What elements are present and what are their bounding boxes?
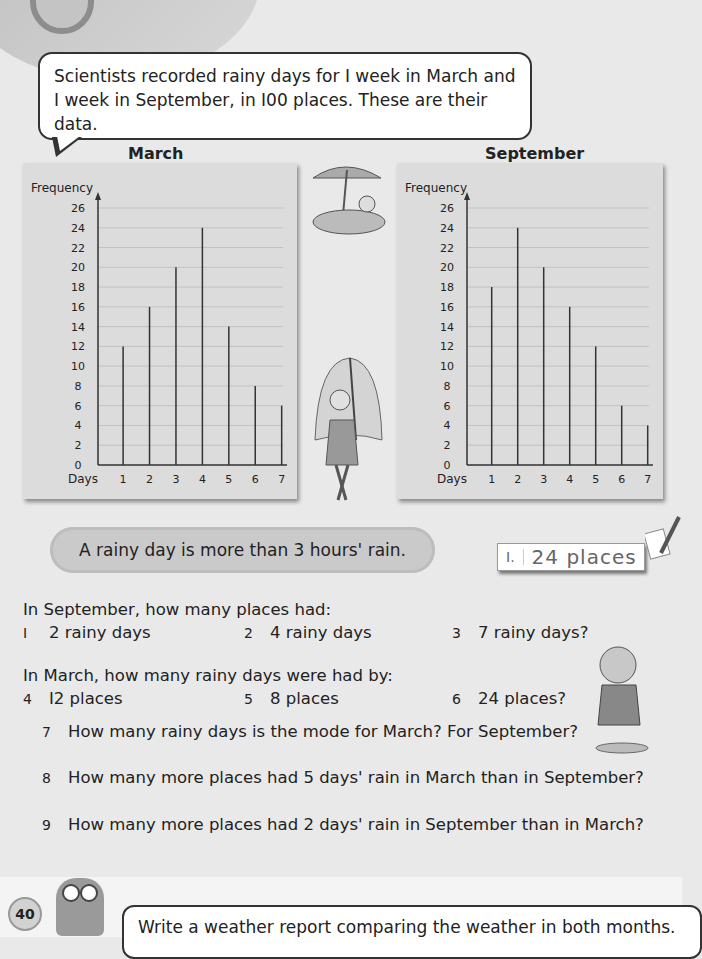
question-text: 4 rainy days [270, 623, 372, 642]
svg-text:Days: Days [437, 472, 467, 486]
intro-line-2: I week in September, in I00 places. Thes… [54, 88, 516, 136]
svg-text:0: 0 [444, 459, 451, 472]
question-number: 2 [244, 625, 270, 641]
question-3: 37 rainy days? [452, 623, 588, 642]
question-number: 3 [452, 625, 478, 641]
svg-text:1: 1 [488, 473, 495, 486]
svg-text:Days: Days [68, 472, 98, 486]
question-number: 5 [244, 691, 270, 707]
svg-text:20: 20 [71, 261, 85, 274]
svg-text:14: 14 [71, 321, 85, 334]
question-text: How many more places had 5 days' rain in… [68, 768, 644, 787]
question-number: 4 [23, 691, 49, 707]
question-number: 9 [42, 817, 68, 833]
svg-text:8: 8 [75, 380, 82, 393]
svg-text:10: 10 [440, 360, 454, 373]
speech-bubble-tail-fill [57, 136, 80, 151]
svg-text:26: 26 [71, 202, 85, 215]
svg-text:6: 6 [444, 400, 451, 413]
september-chart-title: September [485, 144, 584, 163]
march-chart: 02468101214161820222426FrequencyDays1234… [23, 163, 297, 499]
rainy-day-definition: A rainy day is more than 3 hours' rain. [79, 540, 406, 560]
writing-task-text: Write a weather report comparing the wea… [138, 917, 675, 937]
question-number: 6 [452, 691, 478, 707]
svg-text:7: 7 [644, 473, 651, 486]
question-7: 7How many rainy days is the mode for Mar… [42, 722, 578, 741]
svg-text:2: 2 [514, 473, 521, 486]
svg-text:6: 6 [618, 473, 625, 486]
rainy-day-definition-cloud: A rainy day is more than 3 hours' rain. [50, 527, 435, 573]
writing-task-bubble: Write a weather report comparing the wea… [122, 905, 702, 959]
question-text: 8 places [270, 689, 339, 708]
question-8: 8How many more places had 5 days' rain i… [42, 768, 644, 787]
question-text: How many rainy days is the mode for Marc… [68, 722, 578, 741]
svg-text:5: 5 [592, 473, 599, 486]
svg-text:2: 2 [146, 473, 153, 486]
svg-text:7: 7 [278, 473, 285, 486]
svg-text:2: 2 [75, 439, 82, 452]
intro-line-1: Scientists recorded rainy days for I wee… [54, 64, 516, 88]
question-text: 2 rainy days [49, 623, 151, 642]
question-number: 7 [42, 724, 68, 740]
march-chart-title: March [128, 144, 183, 163]
svg-text:22: 22 [71, 242, 85, 255]
question-text: 7 rainy days? [478, 623, 588, 642]
svg-text:4: 4 [199, 473, 206, 486]
svg-text:12: 12 [71, 340, 85, 353]
svg-text:18: 18 [71, 281, 85, 294]
svg-text:3: 3 [172, 473, 179, 486]
question-6: 624 places? [452, 689, 566, 708]
beach-umbrella-illustration [305, 160, 390, 240]
question-1: I2 rainy days [23, 623, 151, 642]
svg-text:14: 14 [440, 321, 454, 334]
question-4: 4I2 places [23, 689, 123, 708]
section1-heading: In September, how many places had: [23, 600, 331, 619]
question-number: 8 [42, 770, 68, 786]
answer-number: I. [498, 549, 524, 565]
svg-text:6: 6 [75, 400, 82, 413]
svg-text:1: 1 [120, 473, 127, 486]
svg-text:24: 24 [71, 222, 85, 235]
svg-text:4: 4 [75, 419, 82, 432]
svg-text:2: 2 [444, 439, 451, 452]
question-text: I2 places [49, 689, 123, 708]
svg-text:4: 4 [444, 419, 451, 432]
jumping-boy-illustration [590, 640, 650, 755]
svg-text:18: 18 [440, 281, 454, 294]
svg-text:Frequency: Frequency [31, 181, 93, 195]
question-2: 24 rainy days [244, 623, 372, 642]
answer-example-box: I. 24 places [497, 543, 645, 571]
question-9: 9How many more places had 2 days' rain i… [42, 815, 644, 834]
svg-text:24: 24 [440, 222, 454, 235]
question-number: I [23, 625, 49, 641]
owl-mascot-icon [56, 878, 104, 936]
section2-heading: In March, how many rainy days were had b… [23, 666, 393, 685]
svg-text:Frequency: Frequency [405, 181, 467, 195]
svg-text:16: 16 [71, 301, 85, 314]
svg-text:3: 3 [540, 473, 547, 486]
question-5: 58 places [244, 689, 339, 708]
svg-text:8: 8 [444, 380, 451, 393]
svg-text:10: 10 [71, 360, 85, 373]
september-chart: 02468101214161820222426FrequencyDays1234… [397, 163, 663, 499]
svg-text:20: 20 [440, 261, 454, 274]
question-text: 24 places? [478, 689, 566, 708]
svg-text:4: 4 [566, 473, 573, 486]
svg-text:0: 0 [75, 459, 82, 472]
pencil-icon [645, 515, 675, 565]
svg-text:6: 6 [252, 473, 259, 486]
svg-text:16: 16 [440, 301, 454, 314]
page-number: 40 [8, 897, 42, 931]
answer-value: 24 places [524, 545, 637, 569]
svg-text:26: 26 [440, 202, 454, 215]
svg-text:12: 12 [440, 340, 454, 353]
svg-text:5: 5 [225, 473, 232, 486]
question-text: How many more places had 2 days' rain in… [68, 815, 644, 834]
intro-speech-bubble: Scientists recorded rainy days for I wee… [38, 52, 532, 140]
svg-text:22: 22 [440, 242, 454, 255]
girl-with-umbrella-illustration [310, 350, 385, 510]
